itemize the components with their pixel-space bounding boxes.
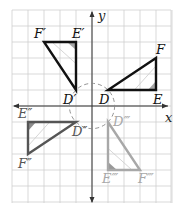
y-axis-arrow-up-icon	[90, 11, 95, 17]
vertex-label-D: D	[98, 92, 110, 107]
right-angle-shade	[108, 162, 117, 170]
x-axis-arrow-right-icon	[162, 104, 168, 109]
right-angle-shade	[67, 42, 76, 50]
vertex-label-E: E″	[17, 106, 32, 121]
right-angle-shade	[148, 81, 156, 90]
x-axis-label: x	[165, 110, 173, 125]
vertex-label-F: F	[155, 42, 166, 57]
vertex-label-E: E	[152, 92, 163, 107]
y-axis-label: y	[97, 8, 106, 23]
vertex-label-F: F‴	[137, 171, 154, 186]
coordinate-plane: xy DEFD′E′F′D″E″F″D‴E‴F‴	[0, 0, 181, 215]
vertex-label-D: D‴	[112, 114, 130, 129]
vertex-label-D: D″	[71, 124, 87, 139]
vertex-label-D: D′	[62, 92, 76, 107]
vertex-label-F: F′	[33, 26, 46, 41]
vertex-label-F: F″	[17, 156, 32, 171]
vertex-label-E: E′	[71, 26, 84, 41]
vertex-label-E: E‴	[101, 171, 118, 186]
rotation-diagram: xy DEFD′E′F′D″E″F″D‴E‴F‴	[0, 0, 181, 215]
right-angle-shade	[28, 122, 36, 131]
